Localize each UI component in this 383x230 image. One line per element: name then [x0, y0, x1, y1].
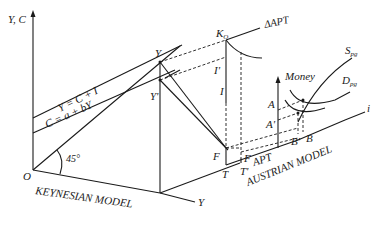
axis-arrow-icon — [31, 10, 36, 17]
Y-prime-to-F-line — [160, 80, 228, 150]
diagram-canvas: Y, C O Y 45° Y = C + I C = a + bY Y Y' Δ… — [0, 0, 383, 230]
point-B-label: B — [306, 132, 313, 144]
supply-curve — [298, 58, 352, 122]
point-I-label: I — [219, 85, 225, 97]
keynesian-model-label: KEYNESIAN MODEL — [34, 184, 134, 210]
point-A-prime-label: A' — [265, 118, 276, 130]
angle-label: 45° — [66, 153, 80, 164]
supply-curve-label: Spg — [345, 44, 358, 58]
interest-axis-label: i — [367, 102, 370, 114]
point-Y-label: Y — [155, 47, 163, 59]
point-F-left-label: F — [212, 150, 220, 162]
A-dashed — [278, 100, 303, 110]
point-A-label: A — [267, 98, 275, 110]
point-Ko-label: KO — [215, 27, 228, 41]
vertical-axis-label: Y, C — [8, 13, 27, 25]
interest-axis — [345, 112, 365, 120]
point-T-label: T — [222, 168, 229, 180]
A-prime-dashed — [278, 113, 298, 120]
origin-label: O — [23, 170, 31, 182]
vertical-axis — [31, 10, 36, 170]
Ko-curve — [226, 40, 262, 58]
keynesian-axis-extension — [160, 193, 195, 202]
point-Y-prime-label: Y' — [150, 90, 159, 102]
F-to-A-dashed — [226, 128, 298, 148]
money-axis-arrow-icon — [276, 76, 281, 83]
economic-models-diagram: Y, C O Y 45° Y = C + I C = a + bY Y Y' Δ… — [0, 0, 383, 230]
horizontal-axis-label: Y — [198, 196, 206, 208]
money-axis-label: Money — [284, 70, 315, 82]
demand-curve-label: Dpg — [341, 74, 357, 88]
delta-apt-label: ΔAPT — [262, 14, 291, 30]
delta-apt-line — [226, 28, 260, 40]
point-I-prime-label: I' — [213, 64, 221, 76]
point-B-prime-label: B' — [291, 135, 301, 147]
forty-five-degree-line — [33, 46, 180, 170]
angle-arc — [57, 150, 62, 174]
